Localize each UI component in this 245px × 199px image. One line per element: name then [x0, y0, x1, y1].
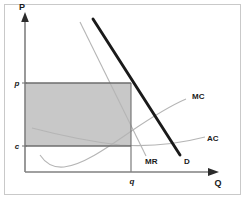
average-cost-label: AC — [207, 134, 219, 143]
y-axis-label: P — [19, 2, 25, 12]
y-tick-label-p: p — [14, 79, 20, 88]
demand-label: D — [184, 157, 190, 166]
monopoly-profit-diagram: P Q p c q MC AC D MR — [0, 0, 245, 199]
marginal-revenue-label: MR — [145, 157, 158, 166]
x-tick-label-q: q — [130, 177, 135, 186]
y-tick-label-c: c — [15, 142, 20, 151]
figure-canvas: P Q p c q MC AC D MR — [0, 0, 245, 199]
x-axis-arrow-icon — [208, 168, 219, 176]
marginal-cost-label: MC — [192, 92, 205, 101]
x-axis-label: Q — [214, 178, 221, 188]
y-axis-arrow-icon — [21, 12, 29, 22]
